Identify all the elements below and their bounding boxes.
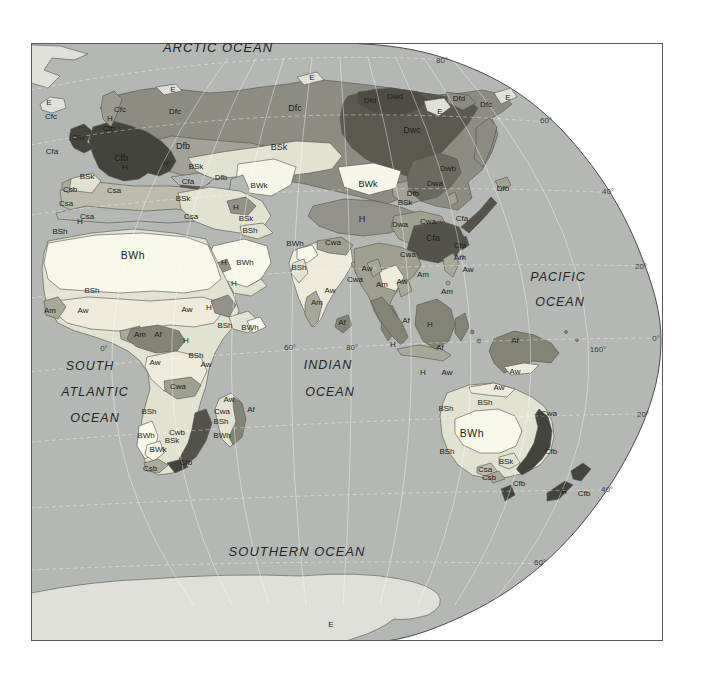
map-body [31, 43, 661, 641]
region-philippine-isle [446, 281, 450, 285]
map-canvas [0, 0, 701, 686]
koppen-climate-map: ECfcCfaCfcHCfbCfbCfbHHBSkCsbCsaCsaCsaHBS… [0, 0, 701, 686]
region-pacific-isle [565, 331, 568, 334]
region-sahara [44, 233, 221, 293]
region-sahel-aw [55, 297, 222, 331]
